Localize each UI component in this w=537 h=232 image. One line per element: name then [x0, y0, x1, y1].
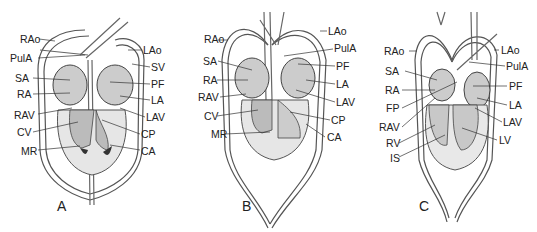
- label-rao: RAo: [20, 34, 40, 45]
- label-sa: SA: [15, 73, 29, 84]
- label-rv: RV: [386, 138, 400, 149]
- label-ca: CA: [141, 146, 156, 157]
- label-lav: LAV: [503, 117, 522, 128]
- label-pula: PulA: [334, 43, 356, 54]
- label-mr: MR: [211, 129, 227, 140]
- panel-a: RAo PulA SA RA RAV CV MR LAo SV PF LA LA…: [0, 0, 180, 232]
- label-mr: MR: [21, 146, 37, 157]
- label-pf: PF: [151, 79, 164, 90]
- label-pf: PF: [509, 81, 522, 92]
- label-cv: CV: [17, 127, 32, 138]
- label-sa: SA: [385, 66, 399, 77]
- label-lav: LAV: [146, 112, 165, 123]
- label-rao: RAo: [204, 34, 224, 45]
- label-ca: CA: [327, 132, 342, 143]
- label-pf: PF: [336, 61, 349, 72]
- label-lav: LAV: [336, 97, 355, 108]
- label-rav: RAV: [198, 92, 219, 103]
- label-sv: SV: [151, 62, 165, 73]
- label-rav: RAV: [379, 122, 400, 133]
- panel-letter-c: C: [419, 198, 429, 214]
- label-rao: RAo: [384, 46, 404, 57]
- panel-letter-b: B: [242, 198, 251, 214]
- panel-letter-a: A: [57, 198, 66, 214]
- label-la: LA: [151, 95, 164, 106]
- label-lao: LAo: [328, 26, 347, 37]
- label-cp: CP: [331, 115, 346, 126]
- label-is: IS: [390, 153, 400, 164]
- label-la: LA: [336, 79, 349, 90]
- label-ra: RA: [203, 75, 218, 86]
- label-fp: FP: [386, 103, 399, 114]
- label-pula: PulA: [506, 61, 528, 72]
- label-lao: LAo: [501, 45, 520, 56]
- label-la: LA: [509, 100, 522, 111]
- label-lao: LAo: [143, 45, 162, 56]
- label-pula: PulA: [10, 53, 32, 64]
- label-sa: SA: [203, 56, 217, 67]
- label-rav: RAV: [14, 110, 35, 121]
- label-ra: RA: [385, 85, 400, 96]
- panel-b: RAo SA RA RAV CV MR LAo PulA PF LA LAV C…: [180, 0, 360, 232]
- label-ra: RA: [17, 89, 32, 100]
- label-cp: CP: [141, 129, 156, 140]
- panel-c: RAo SA RA FP RAV RV IS LAo PulA PF LA LA…: [357, 0, 537, 232]
- label-lv: LV: [499, 135, 511, 146]
- label-cv: CV: [204, 111, 219, 122]
